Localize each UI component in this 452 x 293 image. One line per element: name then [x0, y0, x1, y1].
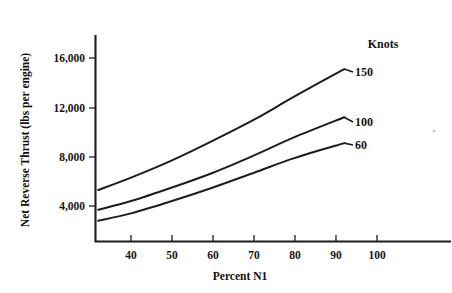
x-tick-label-100: 100	[368, 249, 386, 261]
y-tick-labels: 16,000 12,000 8,000 4,000	[53, 52, 85, 212]
y-tick-label-4000: 4,000	[59, 200, 85, 212]
data-series-group	[98, 69, 344, 221]
series-leader-100	[344, 117, 353, 122]
series-leader-60	[344, 143, 353, 145]
legend-title: Knots	[368, 37, 399, 51]
series-line-150	[98, 69, 344, 190]
axes-group	[96, 36, 451, 242]
series-label-100: 100	[355, 115, 373, 129]
y-tick-label-12000: 12,000	[53, 102, 85, 114]
x-tick-label-80: 80	[289, 249, 301, 261]
chart-canvas: 16,000 12,000 8,000 4,000 40 50 60 70 80…	[0, 0, 452, 293]
axis-lines	[96, 36, 451, 242]
series-labels-group: 150 100 60	[355, 65, 373, 152]
x-tick-label-70: 70	[248, 249, 260, 261]
scan-speck	[432, 129, 435, 132]
x-tick-labels: 40 50 60 70 80 90 100	[125, 249, 386, 261]
series-leader-150	[344, 69, 353, 72]
y-axis-title: Net Reverse Thrust (lbs per engine)	[19, 53, 32, 227]
x-tick-label-40: 40	[125, 249, 137, 261]
series-label-150: 150	[355, 65, 373, 79]
x-tick-label-50: 50	[166, 249, 178, 261]
series-line-100	[98, 117, 344, 210]
series-line-60	[98, 143, 344, 221]
x-tick-label-90: 90	[330, 249, 342, 261]
x-axis-title: Percent N1	[213, 270, 268, 282]
chart-figure: 16,000 12,000 8,000 4,000 40 50 60 70 80…	[0, 0, 452, 293]
x-tick-label-60: 60	[207, 249, 219, 261]
y-tick-label-8000: 8,000	[59, 151, 85, 163]
series-label-60: 60	[355, 138, 367, 152]
y-tick-label-16000: 16,000	[53, 52, 85, 64]
